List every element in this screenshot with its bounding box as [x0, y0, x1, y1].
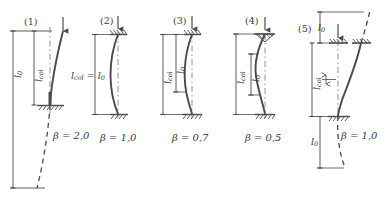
dim-sub-col: col [239, 71, 247, 81]
case-label-3: (3) [173, 15, 186, 26]
dim-base-l: l [12, 75, 23, 78]
beta-label-4: β = 0,5 [245, 132, 281, 143]
dim-sub-0: 0 [321, 26, 325, 34]
dim-label-l0-case-4: l0 [250, 75, 262, 82]
beta-label-1: β = 2,0 [53, 130, 89, 141]
effective-length-mirror-case-1 [37, 105, 50, 188]
equals-sign: = [87, 70, 95, 81]
dim-sub-col: col [37, 69, 45, 79]
case-2-drawing [92, 16, 128, 119]
beta-label-5: β = 1,0 [341, 130, 377, 141]
dim-base-l: l [235, 81, 246, 84]
buckled-column-case-3 [185, 35, 192, 115]
dim-sub-0: 0 [16, 71, 24, 75]
dim-sub-0: 0 [179, 67, 187, 71]
dim-sub-0: 0 [314, 140, 318, 148]
dim-sub-col: col [74, 74, 84, 82]
dim-label-relation-case-2: lcol = l0 [71, 70, 105, 82]
dim-base-l: l [33, 79, 44, 82]
case-label-5: (5) [298, 23, 311, 34]
buckled-column-case-2 [111, 35, 119, 115]
figure-vector-layer [0, 0, 387, 208]
case-label-1: (1) [24, 16, 37, 27]
dim-label-l0-top-case-5: l0 [318, 22, 325, 34]
beta-label-3: β = 0,7 [172, 132, 208, 143]
dim-label-lcol-case-4: lcol [235, 71, 247, 84]
buckling-modes-figure: (1) (2) (3) (4) (5) β = 2,0 β = 1,0 β = … [0, 0, 387, 208]
effective-length-mirror-top-case-5 [361, 10, 370, 43]
dim-base-l: l [311, 87, 322, 90]
dim-sub-0: 0 [101, 74, 105, 82]
dim-label-l0-case-3: l0 [175, 67, 187, 74]
dim-label-l0-case-1: l0 [12, 71, 24, 78]
dim-sub-0: 0 [254, 75, 262, 79]
buckled-column-case-5 [338, 43, 361, 116]
dim-sub-col: col [166, 71, 174, 81]
case-label-2: (2) [100, 15, 113, 26]
dim-label-lcol-case-5: lcol [311, 77, 323, 90]
dim-base-l: l [162, 81, 173, 84]
dim-label-l0-bottom-case-5: l0 [311, 136, 318, 148]
case-4-drawing [233, 17, 275, 119]
case-1-drawing [10, 17, 64, 188]
dim-label-lcol-case-1: lcol [33, 69, 45, 82]
dim-label-lcol-case-3: lcol [162, 71, 174, 84]
dim-base-l: l [175, 71, 186, 74]
case-label-4: (4) [245, 15, 258, 26]
buckled-column-case-1 [50, 31, 63, 105]
beta-label-2: β = 1,0 [100, 132, 136, 143]
dim-sub-col: col [315, 77, 323, 87]
dim-base-l: l [250, 79, 261, 82]
